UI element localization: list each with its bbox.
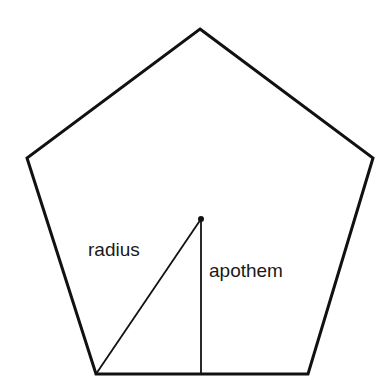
pentagon-outline: [27, 29, 373, 374]
radius-label: radius: [88, 239, 140, 260]
pentagon-diagram: radius apothem: [0, 0, 390, 391]
center-point: [198, 216, 204, 222]
apothem-label: apothem: [209, 260, 283, 281]
